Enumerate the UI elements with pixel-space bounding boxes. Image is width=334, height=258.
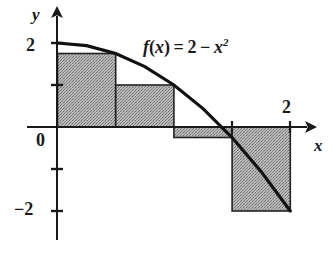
y-tick-label-2: 2: [26, 36, 35, 54]
riemann-rect-2: [116, 85, 174, 127]
exponent: 2: [223, 36, 229, 48]
origin-label-0: 0: [36, 131, 45, 149]
x-tick-label-2: 2: [282, 98, 291, 116]
equals-sign: =: [174, 37, 184, 57]
function-argument: x: [155, 37, 164, 57]
function-equation-label: f(x) = 2 − x2: [143, 37, 228, 56]
variable-term: x: [214, 37, 223, 57]
y-axis-label: y: [32, 6, 40, 23]
x-axis-label: x: [314, 137, 323, 154]
minus-sign: −: [200, 37, 210, 57]
riemann-rect-1: [58, 54, 116, 128]
riemann-rectangles: [58, 54, 291, 212]
y-tick-label-neg2: −2: [14, 200, 33, 218]
